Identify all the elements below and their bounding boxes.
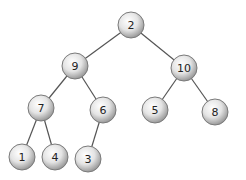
node-label: 2 bbox=[128, 19, 135, 32]
tree-node-3: 3 bbox=[75, 146, 101, 172]
tree-node-2: 2 bbox=[118, 12, 144, 38]
node-label: 8 bbox=[212, 106, 219, 119]
tree-node-10: 10 bbox=[171, 55, 197, 81]
tree-node-1: 1 bbox=[9, 144, 35, 170]
tree-node-6: 6 bbox=[90, 97, 116, 123]
tree-node-8: 8 bbox=[202, 99, 228, 125]
node-label: 3 bbox=[85, 153, 92, 166]
node-label: 7 bbox=[38, 102, 45, 115]
node-label: 1 bbox=[19, 151, 26, 164]
node-label: 6 bbox=[100, 104, 107, 117]
node-label: 5 bbox=[152, 104, 159, 117]
tree-node-4: 4 bbox=[42, 144, 68, 170]
tree-node-9: 9 bbox=[62, 53, 88, 79]
node-label: 4 bbox=[52, 151, 59, 164]
tree-node-5: 5 bbox=[142, 97, 168, 123]
node-label: 9 bbox=[72, 60, 79, 73]
node-label: 10 bbox=[177, 62, 191, 75]
nodes-layer: 29107658143 bbox=[9, 12, 228, 172]
tree-node-7: 7 bbox=[28, 95, 54, 121]
tree-diagram: 29107658143 bbox=[0, 0, 246, 180]
edges-layer bbox=[22, 25, 215, 159]
